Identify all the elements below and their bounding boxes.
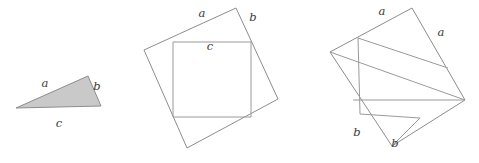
panel-right-triangle: a b c — [16, 76, 101, 130]
outer-tilted-square — [144, 8, 278, 148]
triangle-label-b: b — [93, 79, 100, 93]
right-triangle-shape — [16, 76, 101, 108]
inscribed-square — [173, 42, 251, 117]
upper-diagonal-cut — [358, 38, 448, 68]
square3-label-a-top: a — [379, 4, 386, 18]
outer-tilted-square-dissected — [330, 8, 465, 146]
square3-label-a-right: a — [438, 25, 445, 39]
square2-label-c: c — [207, 39, 214, 53]
square2-label-a: a — [199, 6, 206, 20]
pythagorean-figures-svg: a b c a b c a — [0, 0, 479, 163]
square2-label-b: b — [249, 10, 256, 24]
long-diagonal-cut — [330, 52, 465, 100]
square3-label-b-left: b — [353, 125, 360, 139]
panel-square-on-hypotenuse: a b c — [144, 6, 278, 148]
square3-label-b-bottom: b — [391, 136, 398, 150]
triangle-label-c: c — [56, 116, 63, 130]
panel-squares-on-legs: a a b b — [330, 4, 465, 150]
figure-board: a b c a b c a — [0, 0, 479, 163]
lower-square-top-edge — [360, 114, 420, 118]
triangle-label-a: a — [42, 76, 49, 90]
vertical-cut-line — [358, 38, 360, 114]
